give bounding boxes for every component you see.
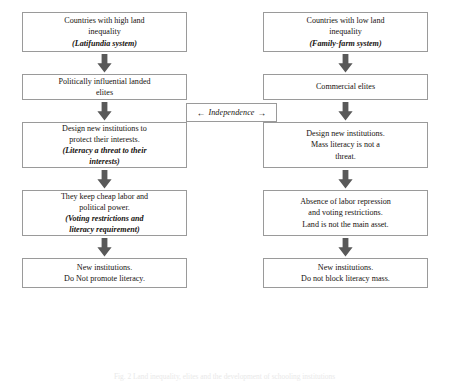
- flowchart-canvas: Countries with high landinequality(Latif…: [0, 0, 449, 384]
- node-left-3: Design new institutions toprotect their …: [22, 122, 187, 168]
- down-block-arrow-icon: [22, 52, 187, 74]
- node-line: Countries with low land: [306, 15, 384, 26]
- node-line: inequality: [88, 26, 120, 37]
- node-left-4: They keep cheap labor andpolitical power…: [22, 190, 187, 236]
- down-block-arrow-icon: [22, 168, 187, 190]
- node-line: Land is not the main asset.: [302, 219, 388, 230]
- down-block-arrow-icon: [263, 100, 428, 122]
- node-right-3: Design new institutions.Mass literacy is…: [263, 122, 428, 168]
- node-line: and voting restrictions.: [308, 207, 382, 218]
- node-line: New institutions.: [77, 262, 132, 273]
- node-line: Absence of labor repression: [300, 196, 391, 207]
- node-line: (Family-farm system): [309, 38, 381, 49]
- node-line: interests): [89, 156, 120, 167]
- down-block-arrow-icon: [263, 168, 428, 190]
- down-block-arrow-icon: [263, 236, 428, 258]
- node-line: threat.: [335, 151, 355, 162]
- node-left-5: New institutions.Do Not promote literacy…: [22, 258, 187, 288]
- node-line: Countries with high land: [64, 15, 144, 26]
- down-block-arrow-icon: [263, 52, 428, 74]
- down-block-arrow-icon: [22, 100, 187, 122]
- node-right-4: Absence of labor repressionand voting re…: [263, 190, 428, 236]
- node-line: They keep cheap labor and: [61, 191, 148, 202]
- independence-label: Independence: [208, 108, 254, 117]
- independence-node: ←Independence→: [186, 103, 277, 122]
- node-line: Do not block literacy mass.: [301, 273, 390, 284]
- node-line: Politically influential landed: [58, 76, 150, 87]
- node-line: Mass literacy is not a: [311, 139, 380, 150]
- node-line: New institutions.: [318, 262, 373, 273]
- node-right-5: New institutions.Do not block literacy m…: [263, 258, 428, 288]
- node-line: inequality: [329, 26, 361, 37]
- node-line: protect their interests.: [69, 134, 139, 145]
- node-line: (Voting restrictions and: [65, 213, 143, 224]
- node-line: political power.: [79, 202, 129, 213]
- node-left-1: Countries with high landinequality(Latif…: [22, 12, 187, 52]
- node-line: (Latifundia system): [72, 38, 137, 49]
- node-line: elites: [96, 87, 113, 98]
- right-flow-column: Countries with low landinequality(Family…: [263, 12, 428, 288]
- down-block-arrow-icon: [22, 236, 187, 258]
- node-line: Commercial elites: [316, 81, 375, 92]
- node-line: (Literacy a threat to their: [62, 145, 146, 156]
- node-line: literacy requirement): [69, 224, 139, 235]
- node-left-2: Politically influential landedelites: [22, 74, 187, 100]
- node-right-2: Commercial elites: [263, 74, 428, 100]
- node-line: Do Not promote literacy.: [64, 273, 145, 284]
- left-arrow-icon: ←: [194, 108, 209, 118]
- left-flow-column: Countries with high landinequality(Latif…: [22, 12, 187, 288]
- node-line: Design new institutions to: [62, 123, 147, 134]
- right-arrow-icon: →: [255, 108, 270, 118]
- node-line: Design new institutions.: [306, 128, 384, 139]
- node-right-1: Countries with low landinequality(Family…: [263, 12, 428, 52]
- figure-caption: Fig. 2 Land inequality, elites and the d…: [0, 372, 449, 384]
